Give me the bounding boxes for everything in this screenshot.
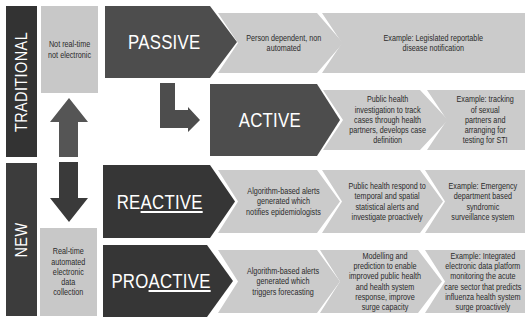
row-reactive-title-box: REACTIVE [103, 165, 235, 238]
row-passive-example-text: Example: Legislated reportable disease n… [384, 33, 484, 53]
row-proactive-title-box: PROACTIVE [103, 245, 233, 317]
row-proactive-step-1: Algorithm-based alerts generated which t… [218, 250, 340, 313]
row-passive-example: Example: Legislated reportable disease n… [322, 13, 525, 73]
era-bar-new: NEW [6, 163, 37, 316]
data-collection-traditional-text: Not real-time not electronic [48, 39, 91, 59]
row-reactive-step-1: Algorithm-based alerts generated which n… [218, 170, 340, 233]
row-proactive-title: PROACTIVE [112, 269, 211, 293]
arrow-elbow-right-icon [160, 83, 202, 133]
row-proactive-step-2-text: Modelling and prediction to enable impro… [349, 251, 421, 312]
row-reactive-example-text: Example: Emergency department based synd… [449, 181, 518, 222]
data-collection-traditional: Not real-time not electronic [41, 6, 98, 93]
row-passive-step-1-text: Person dependent, non automated [246, 33, 321, 53]
row-passive-title-box: PASSIVE [105, 6, 237, 78]
row-passive-step-1: Person dependent, non automated [218, 13, 343, 73]
row-active-step-1: Public health investigation to track cas… [323, 90, 448, 150]
row-active-title: ACTIVE [239, 108, 301, 132]
data-collection-new: Real-time automated electronic data coll… [40, 228, 97, 316]
row-reactive-step-1-text: Algorithm-based alerts generated which n… [246, 186, 321, 217]
row-passive-title: PASSIVE [128, 30, 200, 54]
arrow-down-icon [50, 162, 88, 224]
row-reactive-title: REACTIVE [117, 190, 203, 214]
era-bar-traditional: TRADITIONAL [6, 6, 37, 157]
era-label-traditional: TRADITIONAL [12, 31, 32, 131]
data-collection-new-text: Real-time automated electronic data coll… [51, 246, 85, 297]
row-reactive-step-2: Public health respond to temporal and sp… [322, 170, 443, 233]
row-proactive-step-1-text: Algorithm-based alerts generated which t… [247, 266, 319, 297]
row-reactive-step-2-text: Public health respond to temporal and sp… [348, 181, 425, 222]
row-active-example-text: Example: tracking of sexual partners and… [456, 94, 513, 145]
era-label-new: NEW [12, 222, 32, 257]
arrow-up-icon [50, 98, 88, 158]
row-active-title-box: ACTIVE [210, 84, 340, 156]
row-proactive-example-text: Example: Integrated electronic data plat… [444, 251, 521, 312]
row-active-step-1-text: Public health investigation to track cas… [350, 94, 427, 145]
